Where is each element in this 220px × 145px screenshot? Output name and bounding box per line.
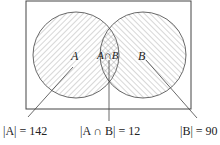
count-intersection: |A ∩ B| = 12 — [80, 124, 140, 138]
label-a: A — [71, 49, 78, 63]
label-b: B — [138, 49, 145, 63]
label-intersection: A∩B — [97, 49, 118, 61]
count-b: |B| = 90 — [180, 124, 218, 138]
count-a: |A| = 142 — [3, 124, 47, 138]
